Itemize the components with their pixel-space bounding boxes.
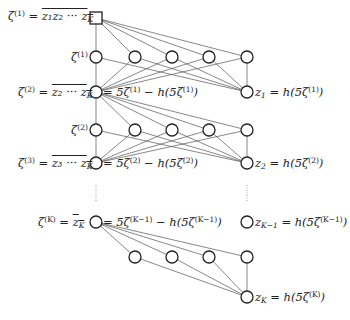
zetaK-node — [90, 216, 102, 228]
label-row2-left: ζ(2) = z₂ ··· zK — [18, 86, 92, 98]
label-rowK-right: zK−1 = h(5ζ(K−1)) — [255, 216, 347, 228]
zK-1-node — [241, 216, 253, 228]
label-row3-right: z2 = h(5ζ(2)) — [255, 157, 323, 169]
label-row3-hidden: ζ(2) — [71, 124, 88, 136]
zK-node — [241, 291, 253, 303]
label-top: ζ(1) = z₁z₂ ··· zK — [8, 10, 93, 22]
label-row2-mid: = 5ζ(1) − h(5ζ(1)) — [103, 86, 198, 98]
label-row1-hidden: ζ(1) — [71, 51, 88, 63]
label-bottom-right: zK = h(5ζ(K)) — [255, 291, 325, 303]
z2-node — [241, 157, 253, 169]
label-row3-mid: = 5ζ(2) − h(5ζ(2)) — [103, 157, 198, 169]
label-row3-left: ζ(3) = z₃ ··· zK — [18, 157, 92, 169]
z1-node — [241, 86, 253, 98]
label-rowK-mid: = 5ζ(K−1) − h(5ζ(K−1)) — [103, 216, 222, 228]
label-rowK-left: ζ(K) = zK — [38, 216, 84, 228]
label-row2-right: z1 = h(5ζ(1)) — [255, 86, 323, 98]
